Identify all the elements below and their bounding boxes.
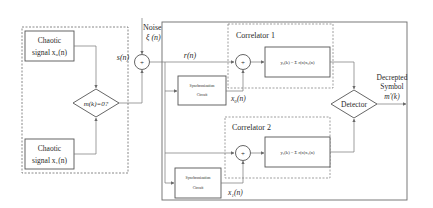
- chaotic-source-0: Chaotic signal x₀(n): [25, 31, 74, 61]
- source1-line2: signal x₁(n): [32, 156, 67, 165]
- output-label: Decrepted Symbol m'(k): [377, 73, 408, 101]
- arrow-switch-to-channel-adder: [119, 70, 142, 103]
- sync1-line2: Circuit: [197, 93, 208, 97]
- source1-line1: Chaotic: [38, 144, 62, 153]
- sync-circuit-2: Synchronization Circuit: [175, 168, 221, 198]
- correlator1-adder-plus: +: [241, 59, 245, 67]
- source0-line1: Chaotic: [38, 36, 62, 45]
- output-line1: Decrepted: [377, 73, 408, 82]
- detector-label: Detector: [341, 100, 367, 109]
- received-label: r(n): [184, 51, 197, 60]
- sync1-line1: Synchronization: [190, 84, 215, 88]
- arrow-c2-to-detector: [330, 119, 354, 152]
- correlator1-title: Correlator 1: [236, 31, 275, 40]
- channel-adder-plus: +: [140, 59, 144, 67]
- correlator2-adder-plus: +: [241, 150, 245, 158]
- source0-line2: signal x₀(n): [32, 48, 67, 57]
- correlator-1: Correlator 1 + y₀(k) = Σ r(n)x₀(n): [228, 24, 333, 88]
- sync-circuit-1: Synchronization Circuit: [178, 76, 226, 105]
- correlator-2: Correlator 2 + y₁(k) = Σ r(n)x₁(n): [225, 117, 330, 178]
- switch-decision: m(k)=0?: [73, 89, 119, 117]
- switch-label: m(k)=0?: [84, 100, 109, 108]
- output-line2: Symbol: [380, 82, 403, 91]
- receiver-block: r(n) Correlator 1 + y₀(k) = Σ r(n)x₀(n) …: [150, 22, 408, 200]
- transmitter-block: Chaotic signal x₀(n) Chaotic signal x₁(n…: [22, 27, 128, 173]
- signal-s-label: s(n): [117, 53, 130, 62]
- sync2-line1: Synchronization: [186, 176, 211, 180]
- arrow-source0-to-switch: [74, 46, 96, 88]
- noise-symbol: ξ (n): [146, 33, 161, 42]
- correlator2-title: Correlator 2: [232, 123, 271, 132]
- arrow-source1-to-switch: [74, 118, 96, 154]
- correlator2-formula: y₁(k) = Σ r(n)x₁(n): [280, 150, 315, 155]
- arrow-sync2-to-adder: [221, 161, 243, 183]
- correlator1-formula: y₀(k) = Σ r(n)x₀(n): [280, 60, 315, 65]
- noise-label: Noise: [143, 23, 162, 32]
- output-line3: m'(k): [384, 92, 400, 101]
- ref1-label: x₁(n): [227, 188, 243, 197]
- block-diagram: Chaotic signal x₀(n) Chaotic signal x₁(n…: [0, 0, 433, 208]
- detector: Detector: [331, 90, 377, 118]
- ref0-label: x₀(n): [230, 94, 246, 103]
- arrow-c1-to-detector: [330, 62, 354, 89]
- sync2-line2: Circuit: [193, 186, 204, 190]
- chaotic-source-1: Chaotic signal x₁(n): [25, 139, 74, 169]
